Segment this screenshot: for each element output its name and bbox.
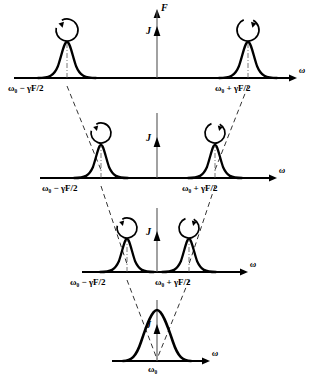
right-arrow-icon bbox=[240, 268, 248, 275]
counterclockwise-rotation-icon bbox=[87, 119, 114, 146]
label-minus-split-2: ω₀ − γF/2 bbox=[42, 184, 78, 193]
counterclockwise-arrowhead bbox=[59, 22, 65, 28]
j-axis-label-3: J bbox=[146, 227, 151, 237]
clockwise-rotation-icon bbox=[201, 119, 228, 146]
j-axis-label-2: J bbox=[146, 133, 151, 143]
counterclockwise-rotation-icon bbox=[52, 15, 82, 45]
clockwise-rotation-icon bbox=[233, 15, 263, 45]
panel-merged bbox=[112, 300, 210, 365]
right-arrow-icon bbox=[202, 357, 210, 364]
panel-small-splitting bbox=[82, 208, 248, 276]
panel-largest-splitting bbox=[14, 9, 297, 82]
omega-axis-label-4: ω bbox=[212, 349, 218, 358]
right-arrow-icon bbox=[269, 174, 277, 181]
omega-axis-label-1: ω bbox=[299, 66, 305, 75]
label-minus-split-1: ω₀ − γF/2 bbox=[8, 84, 44, 93]
right-arrow-icon bbox=[289, 74, 297, 81]
label-center-omega0: ω₀ bbox=[148, 365, 157, 374]
j-axis-label-4: J bbox=[146, 320, 151, 330]
omega-axis-label-2: ω bbox=[279, 166, 285, 175]
omega-axis-label-3: ω bbox=[250, 260, 256, 269]
counterclockwise-rotation-icon bbox=[113, 214, 140, 241]
right-converge-3 bbox=[157, 280, 189, 359]
clockwise-rotation-icon bbox=[175, 214, 202, 241]
up-arrow-icon bbox=[154, 26, 161, 36]
f-axis-label: F bbox=[161, 3, 168, 13]
left-converge-3 bbox=[127, 280, 157, 359]
up-arrow-icon bbox=[154, 324, 161, 334]
counterclockwise-arrowhead bbox=[119, 220, 124, 226]
counterclockwise-arrowhead bbox=[93, 125, 98, 131]
j-axis-label-1: J bbox=[146, 26, 151, 36]
up-arrow-icon bbox=[154, 231, 161, 241]
label-minus-split-3: ω₀ − γF/2 bbox=[70, 278, 106, 287]
label-plus-split-2: ω₀ + γF/2 bbox=[182, 184, 218, 193]
label-plus-split-3: ω₀ + γF/2 bbox=[155, 278, 191, 287]
label-plus-split-1: ω₀ + γF/2 bbox=[215, 84, 251, 93]
panel-medium-splitting bbox=[40, 113, 277, 182]
up-arrow-icon bbox=[154, 137, 161, 147]
